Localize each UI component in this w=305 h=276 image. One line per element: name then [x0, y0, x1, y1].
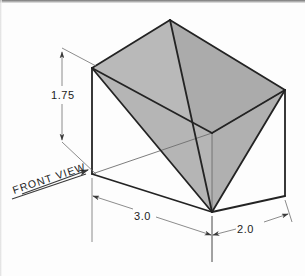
isometric-drawing-canvas: 1.75 3.0 2.0 FRONT VIEW	[0, 0, 305, 276]
scan-edge-left	[0, 0, 2, 276]
dimension-height-group	[62, 48, 96, 174]
dimension-depth-text: 2.0	[237, 223, 254, 235]
bottom-front-right-edge	[212, 196, 285, 212]
drawing-sheet: 1.75 3.0 2.0 FRONT VIEW	[0, 0, 305, 276]
depth-dimension-line-right	[264, 214, 288, 222]
dimension-height-text: 1.75	[51, 89, 75, 101]
front-view-annotation: FRONT VIEW	[11, 160, 88, 199]
scan-edge-top	[0, 0, 305, 3]
length-dimension-line-right	[156, 217, 211, 235]
depth-extension-right	[285, 200, 292, 222]
depth-dimension-line-left	[213, 229, 236, 235]
height-extension-upper	[62, 48, 96, 66]
length-dimension-line-left	[93, 196, 133, 209]
front-view-label: FRONT VIEW	[11, 160, 88, 196]
dimension-length-text: 3.0	[134, 210, 151, 222]
